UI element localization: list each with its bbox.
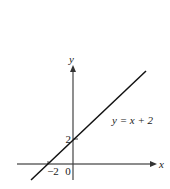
y-axis-label: y xyxy=(68,53,74,65)
y-axis-arrow-icon xyxy=(70,65,76,72)
x-intercept-label: −2 xyxy=(47,165,59,177)
x-axis-label: x xyxy=(158,158,164,170)
origin-label: 0 xyxy=(65,165,71,177)
y-intercept-label: 2 xyxy=(66,133,72,145)
equation-label: y = x + 2 xyxy=(111,114,154,126)
graph-canvas: y x y = x + 2 2 −2 0 xyxy=(0,0,170,189)
x-axis-arrow-icon xyxy=(150,161,157,167)
